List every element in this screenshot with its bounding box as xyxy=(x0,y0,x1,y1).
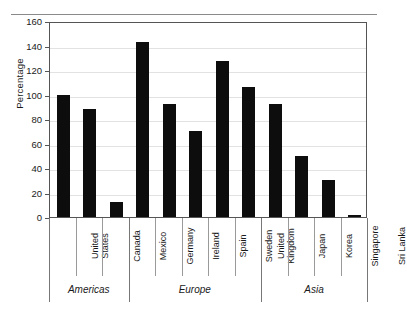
x-axis-group-labels: AmericasEuropeAsia xyxy=(49,276,367,302)
category-label-cell: UnitedKingdom xyxy=(235,218,262,276)
category-label-cell: Singapore xyxy=(314,218,341,276)
category-label-cell: Spain xyxy=(182,218,209,276)
bar xyxy=(83,109,96,217)
group-label: Europe xyxy=(129,276,262,302)
group-label: Americas xyxy=(49,276,129,302)
category-separator xyxy=(235,218,236,276)
y-tick-label: 40 xyxy=(31,163,42,174)
bar xyxy=(110,202,123,217)
category-separator xyxy=(314,218,315,276)
plot-area xyxy=(49,22,367,218)
category-label-cell: Sri Lanka xyxy=(341,218,368,276)
y-tick-label: 100 xyxy=(26,90,42,101)
category-label-cell: Korea xyxy=(288,218,315,276)
bar xyxy=(163,104,176,217)
bar xyxy=(295,156,308,217)
category-label-cell: Ireland xyxy=(155,218,182,276)
category-label-cell: Sweden xyxy=(208,218,235,276)
category-label: Sri Lanka xyxy=(349,218,407,274)
group-separator xyxy=(129,218,130,302)
y-tick-label: 120 xyxy=(26,65,42,76)
group-label: Asia xyxy=(261,276,367,302)
group-separator xyxy=(367,218,368,302)
bar xyxy=(57,95,70,218)
category-separator xyxy=(182,218,183,276)
bar-series xyxy=(50,23,366,217)
y-tick-label: 80 xyxy=(31,114,42,125)
group-separator xyxy=(261,218,262,302)
category-label-cell: Mexico xyxy=(102,218,129,276)
bar xyxy=(242,87,255,217)
category-separator xyxy=(102,218,103,276)
bar xyxy=(216,61,229,217)
category-label-cell: Canada xyxy=(76,218,103,276)
bar xyxy=(348,215,361,217)
y-tick-label: 140 xyxy=(26,41,42,52)
category-label-cell: Germany xyxy=(129,218,156,276)
bar xyxy=(322,180,335,217)
category-separator xyxy=(155,218,156,276)
category-separator xyxy=(76,218,77,276)
category-separator xyxy=(288,218,289,276)
group-separator xyxy=(49,218,50,302)
bar xyxy=(189,131,202,217)
y-tick-label: 0 xyxy=(37,212,42,223)
category-label-cell: Japan xyxy=(261,218,288,276)
y-tick-label: 60 xyxy=(31,139,42,150)
bar xyxy=(136,42,149,217)
y-axis-ticks: 020406080100120140160 xyxy=(0,0,49,309)
y-tick-label: 160 xyxy=(26,16,42,27)
y-tick-label: 20 xyxy=(31,188,42,199)
x-axis-category-labels: UnitedStatesCanadaMexicoGermanyIrelandSp… xyxy=(49,218,367,276)
bar xyxy=(269,104,282,217)
category-separator xyxy=(208,218,209,276)
top-divider-rule xyxy=(11,14,377,15)
category-label-cell: UnitedStates xyxy=(49,218,76,276)
category-separator xyxy=(341,218,342,276)
